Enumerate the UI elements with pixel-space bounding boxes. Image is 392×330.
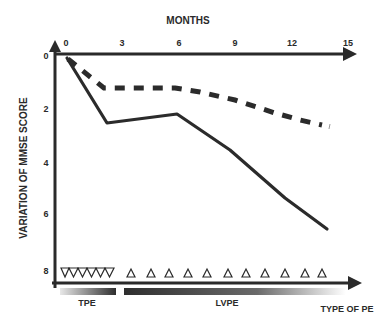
y-axis-title: VARIATION OF MMSE SCORE bbox=[18, 97, 29, 239]
tpe-bar bbox=[60, 288, 116, 295]
y-tick-label: 0 bbox=[43, 51, 48, 61]
x-axis-title: MONTHS bbox=[166, 15, 210, 26]
y-tick-label: 4 bbox=[43, 158, 48, 168]
bottom-axis: TPE LVPE TYPE OF PE bbox=[52, 276, 374, 314]
x-tick-label: 15 bbox=[343, 38, 353, 48]
down-triangle-icon bbox=[61, 268, 69, 277]
lvpe-label: LVPE bbox=[216, 298, 239, 308]
bottom-axis-arrow-icon bbox=[348, 276, 362, 290]
tpe-markers bbox=[61, 268, 114, 277]
up-triangle-icon bbox=[184, 269, 192, 277]
solid-series-line bbox=[67, 58, 327, 229]
up-triangle-icon bbox=[301, 269, 309, 277]
lvpe-bar bbox=[124, 288, 346, 295]
up-triangle-icon bbox=[224, 269, 232, 277]
down-triangle-icon bbox=[105, 268, 114, 277]
y-tick-label: 2 bbox=[43, 104, 48, 114]
up-triangle-icon bbox=[147, 269, 155, 277]
y-tick-label: 8 bbox=[43, 266, 48, 276]
dashed-series-end-tick bbox=[329, 124, 330, 129]
up-triangle-icon bbox=[318, 269, 326, 277]
x-axis: 0 3 6 9 12 15 bbox=[55, 38, 357, 61]
down-triangle-icon bbox=[96, 268, 105, 277]
bottom-axis-title: TYPE OF PE bbox=[320, 304, 373, 314]
dashed-series-line bbox=[68, 59, 322, 125]
y-axis-arrow-icon bbox=[49, 40, 61, 52]
y-axis: 0 2 4 6 8 bbox=[43, 40, 61, 288]
x-tick-label: 0 bbox=[63, 38, 68, 48]
lvpe-markers bbox=[127, 269, 326, 277]
x-axis-arrow-icon bbox=[343, 47, 357, 61]
up-triangle-icon bbox=[261, 269, 269, 277]
x-tick-label: 3 bbox=[119, 38, 124, 48]
x-tick-label: 12 bbox=[287, 38, 297, 48]
down-triangle-icon bbox=[78, 268, 87, 277]
up-triangle-icon bbox=[281, 269, 289, 277]
x-tick-label: 9 bbox=[232, 38, 237, 48]
up-triangle-icon bbox=[203, 269, 211, 277]
up-triangle-icon bbox=[242, 269, 250, 277]
up-triangle-icon bbox=[127, 269, 135, 277]
down-triangle-icon bbox=[69, 268, 78, 277]
down-triangle-icon bbox=[87, 268, 96, 277]
tpe-label: TPE bbox=[78, 298, 96, 308]
y-tick-label: 6 bbox=[43, 209, 48, 219]
mmse-chart: MONTHS VARIATION OF MMSE SCORE 0 3 6 9 1… bbox=[0, 0, 392, 330]
up-triangle-icon bbox=[165, 269, 173, 277]
x-tick-label: 6 bbox=[176, 38, 181, 48]
